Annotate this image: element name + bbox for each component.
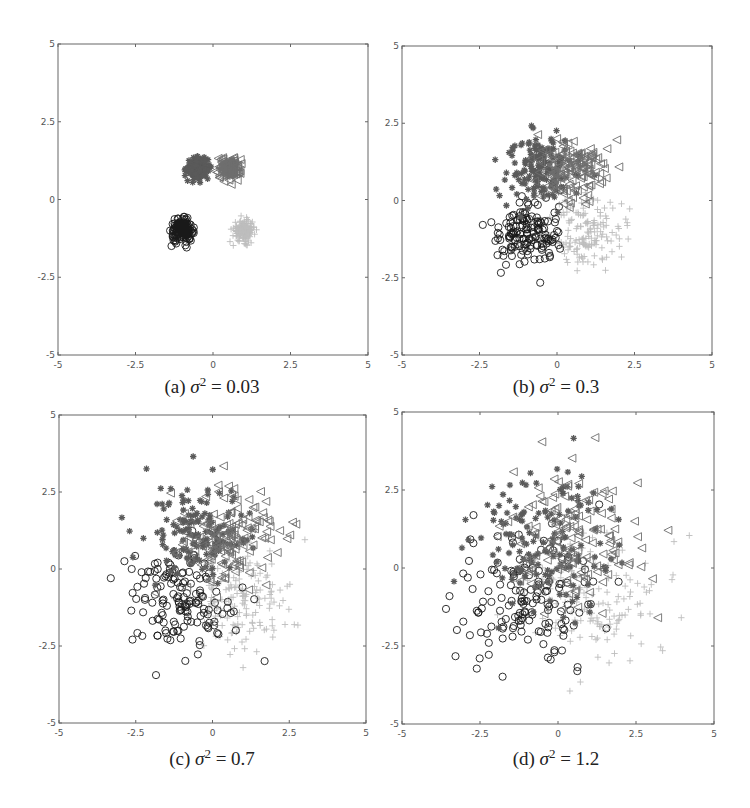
point-class-4 [256,602,262,608]
point-class-1 [509,600,515,606]
point-class-1 [597,540,603,546]
point-class-1 [545,567,551,573]
point-class-4 [591,253,597,259]
series-class-4 [227,213,260,249]
point-class-4 [594,206,600,212]
point-class-3 [158,609,165,616]
point-class-3 [479,598,486,605]
caption-value: = 0.3 [555,376,599,397]
point-class-4 [225,637,231,643]
point-class-4 [224,615,230,621]
point-class-1 [159,527,165,533]
point-class-3 [149,599,156,606]
point-class-4 [587,618,593,624]
point-class-4 [574,268,580,274]
point-class-1 [525,206,531,212]
point-class-1 [495,546,501,552]
point-class-3 [473,665,480,672]
point-class-2 [591,434,599,442]
point-class-2 [608,487,616,495]
point-class-1 [518,512,524,518]
point-class-4 [566,244,572,250]
point-class-4 [596,601,602,607]
point-class-2 [214,481,222,489]
point-class-1 [184,178,190,184]
point-class-3 [464,574,471,581]
point-class-3 [452,653,459,660]
x-tick-label: 0 [210,360,216,370]
point-class-1 [152,582,158,588]
series-class-2 [493,434,672,622]
point-class-3 [531,256,538,263]
point-class-3 [182,657,189,664]
point-class-1 [542,548,548,554]
point-class-4 [603,234,609,240]
y-tick-label: -5 [47,718,56,728]
point-class-1 [579,473,585,479]
point-class-4 [648,581,654,587]
point-class-2 [543,556,551,564]
point-class-1 [526,141,532,147]
point-class-4 [243,636,249,642]
point-class-4 [585,259,591,265]
point-class-4 [600,600,606,606]
point-class-3 [170,618,177,625]
point-class-1 [512,160,518,166]
point-class-1 [164,517,170,523]
point-class-1 [570,435,576,441]
panel-caption: (d) σ2 = 1.2 [513,746,600,770]
y-tick-label: 5 [50,410,56,420]
point-class-2 [599,550,607,558]
point-class-4 [280,597,286,603]
point-class-4 [619,547,625,553]
point-class-4 [594,635,600,641]
point-class-3 [512,587,519,594]
point-class-4 [616,236,622,242]
caption-value: = 1.2 [555,748,599,769]
point-class-1 [491,510,497,516]
point-class-4 [669,576,675,582]
point-class-4 [227,651,233,657]
point-class-4 [295,622,301,628]
point-class-3 [485,588,492,595]
point-class-2 [574,603,582,611]
x-tick-label: 2.5 [627,360,641,370]
point-class-1 [514,191,520,197]
y-tick-label: 5 [393,407,399,417]
point-class-1 [183,166,189,172]
point-class-3 [518,628,525,635]
y-tick-label: 0 [393,196,399,206]
point-class-3 [537,279,544,286]
point-class-4 [286,606,292,612]
point-class-2 [568,454,576,462]
point-class-4 [646,588,652,594]
point-class-1 [159,501,165,507]
y-tick-label: 0 [393,563,399,573]
y-tick-label: 5 [49,39,55,49]
x-tick-label: -5 [55,728,64,738]
point-class-4 [584,229,590,235]
series-class-1 [182,153,215,186]
point-class-3 [442,605,449,612]
point-class-1 [523,196,529,202]
y-tick-label: 2.5 [385,485,399,495]
x-tick-label: -2.5 [471,360,489,370]
series-class-3 [167,213,198,251]
point-class-3 [128,565,135,572]
point-class-4 [609,249,615,255]
point-class-3 [129,636,136,643]
point-class-3 [466,632,473,639]
point-class-1 [130,554,136,560]
point-class-1 [179,499,185,505]
point-class-1 [506,149,512,155]
point-class-2 [654,614,662,622]
point-class-4 [565,227,571,233]
point-class-4 [613,572,619,578]
x-tick-label: 2.5 [629,729,643,739]
point-class-3 [496,231,503,238]
point-class-2 [266,536,274,544]
point-class-4 [601,205,607,211]
point-class-1 [530,538,536,544]
point-class-3 [499,635,506,642]
point-class-4 [614,599,620,605]
